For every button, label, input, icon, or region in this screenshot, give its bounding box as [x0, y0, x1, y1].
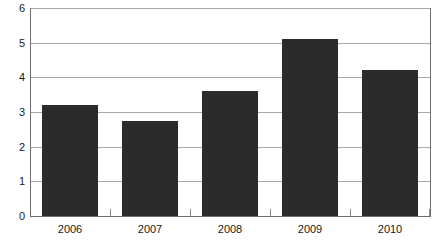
x-tick-label: 2010: [378, 224, 402, 235]
y-tick-label: 6: [3, 3, 25, 14]
y-tick-label: 3: [3, 107, 25, 118]
y-tick-label: 2: [3, 141, 25, 152]
y-tick-label: 5: [3, 37, 25, 48]
x-tick-mark: [270, 209, 271, 216]
x-tick-label: 2006: [58, 224, 82, 235]
bar-slot: [110, 8, 190, 216]
plot-area: [30, 8, 430, 216]
bar-2009[interactable]: [282, 39, 338, 216]
y-axis-tick-labels: 0123456: [0, 8, 25, 216]
y-tick-label: 0: [3, 211, 25, 222]
bar-slot: [30, 8, 110, 216]
bar-2007[interactable]: [122, 121, 178, 216]
y-tick-label: 1: [3, 176, 25, 187]
bar-chart: 0123456 20062007200820092010: [0, 0, 436, 247]
x-axis-tick-labels: 20062007200820092010: [30, 224, 430, 242]
x-tick-mark: [110, 209, 111, 216]
bar-series: [30, 8, 430, 216]
plot-right-border: [430, 8, 431, 217]
bar-slot: [190, 8, 270, 216]
x-tick-mark: [429, 209, 430, 216]
bar-slot: [350, 8, 430, 216]
bar-2006[interactable]: [42, 105, 98, 216]
x-tick-mark: [190, 209, 191, 216]
x-tick-label: 2008: [218, 224, 242, 235]
x-tick-mark: [350, 209, 351, 216]
x-tick-label: 2009: [298, 224, 322, 235]
bar-2008[interactable]: [202, 91, 258, 216]
bar-slot: [270, 8, 350, 216]
bar-2010[interactable]: [362, 70, 418, 216]
y-axis-line: [30, 8, 31, 217]
y-tick-label: 4: [3, 72, 25, 83]
x-tick-label: 2007: [138, 224, 162, 235]
x-axis-tick-marks: [30, 209, 430, 217]
